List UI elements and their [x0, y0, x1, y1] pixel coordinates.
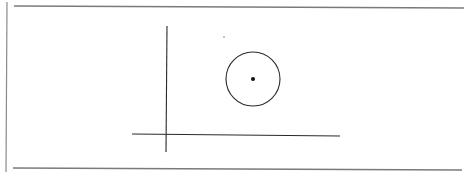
top-frame-rule [14, 6, 464, 8]
stray-point [223, 36, 225, 38]
bottom-frame-rule [13, 168, 462, 170]
diagram-canvas [0, 0, 471, 172]
horizontal-axis [132, 134, 340, 136]
circle-center-point [251, 77, 255, 81]
left-frame-rule [6, 2, 7, 172]
vertical-axis [166, 26, 167, 152]
diagram-figure [0, 0, 471, 172]
